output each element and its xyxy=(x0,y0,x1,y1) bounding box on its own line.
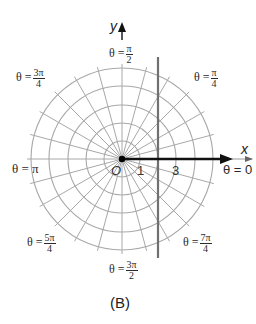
radial-line-120deg xyxy=(75,77,123,159)
angle-label-pi-over-2: θ =π2 xyxy=(109,44,133,65)
angle-label-3pi-over-2: θ =3π2 xyxy=(109,260,138,281)
radial-line-330deg xyxy=(122,159,204,207)
y-axis-label: y xyxy=(110,18,117,34)
angle-label-3pi-over-4: θ =3π4 xyxy=(16,68,45,89)
pole-dot xyxy=(119,156,125,162)
figure-caption: (B) xyxy=(110,294,130,311)
radial-line-135deg xyxy=(55,92,122,159)
angle-label-5pi-over-4: θ =5π4 xyxy=(27,233,56,254)
radial-line-300deg xyxy=(122,159,170,241)
radial-line-150deg xyxy=(40,112,122,160)
angle-label-zero: θ = 0 xyxy=(223,163,252,176)
radial-line-30deg xyxy=(122,112,204,160)
origin-label: O xyxy=(111,163,121,178)
tick-label-1: 1 xyxy=(137,163,144,178)
radial-line-60deg xyxy=(122,77,170,159)
angle-label-pi-over-4: θ =π4 xyxy=(194,68,218,89)
y-axis-arrowhead xyxy=(118,22,126,32)
angle-label-pi: θ = π xyxy=(12,162,39,175)
radial-line-210deg xyxy=(40,159,122,207)
angle-label-7pi-over-4: θ =7π4 xyxy=(183,233,212,254)
radial-line-45deg xyxy=(122,92,189,159)
tick-label-3: 3 xyxy=(172,163,179,178)
x-axis-label: x xyxy=(241,141,248,157)
